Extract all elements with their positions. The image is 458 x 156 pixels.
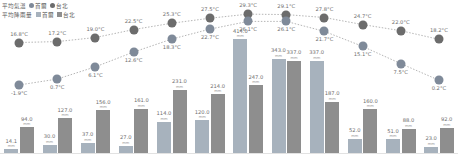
month-group: 414.0mm247.0mm <box>233 35 263 153</box>
temperature-value-label: 27.8°C <box>316 6 334 12</box>
bar-unit-label: mm <box>96 105 111 109</box>
rainfall-bar-seoul: 414.0mm <box>233 39 247 153</box>
temperature-dot-taipei <box>320 13 329 22</box>
month-group: 337.0mm187.0mm <box>310 35 340 153</box>
temperature-value-label: 18.3°C <box>163 44 181 50</box>
bar-value-label: 343.0mm <box>271 48 286 57</box>
temperature-dot-taipei <box>129 25 138 34</box>
temperature-dot-seoul <box>396 59 405 68</box>
rainfall-bar-taipei: 94.0mm <box>20 127 34 153</box>
rainfall-bar-seoul: 52.0mm <box>348 139 362 153</box>
rainfall-bar-seoul: 27.0mm <box>119 146 133 153</box>
bar-unit-label: mm <box>349 134 361 138</box>
bar-value-label: 52.0mm <box>349 128 361 137</box>
rainfall-bar-taipei: 127.0mm <box>58 118 72 153</box>
bar-unit-label: mm <box>44 140 56 144</box>
bar-value-label: 92.0mm <box>441 117 453 126</box>
temperature-value-label: 0.2°C <box>432 85 446 91</box>
bar-unit-label: mm <box>271 54 286 58</box>
temperature-dot-taipei <box>91 33 100 42</box>
rainfall-bar-seoul: 51.0mm <box>386 139 400 153</box>
temperature-dot-seoul <box>358 42 367 51</box>
month-group: 114.0mm231.0mm <box>157 35 187 153</box>
temperature-value-label: 25.3°C <box>163 11 181 17</box>
bar-value-label: 156.0mm <box>96 100 111 109</box>
bar-value-label: 161.0mm <box>134 98 149 107</box>
bar-unit-label: mm <box>157 117 172 121</box>
bar-unit-label: mm <box>21 122 33 126</box>
bar-value-label: 120.0mm <box>195 110 210 119</box>
temperature-value-label: 12.6°C <box>125 57 143 63</box>
rainfall-bar-taipei: 187.0mm <box>325 102 339 153</box>
temperature-value-label: 29.1°C <box>277 3 295 9</box>
bar-value-label: 160.0mm <box>363 99 378 108</box>
bar-value-label: 187.0mm <box>325 91 340 100</box>
bar-value-label: 337.0mm <box>309 50 324 59</box>
bar-value-label: 247.0mm <box>248 75 263 84</box>
temperature-dot-taipei <box>205 14 214 23</box>
temperature-dot-taipei <box>358 20 367 29</box>
temperature-value-label: 22.7°C <box>201 34 219 40</box>
bar-unit-label: mm <box>233 34 248 38</box>
month-group: 120.0mm214.0mm <box>195 35 225 153</box>
rainfall-bar-taipei: 214.0mm <box>211 94 225 153</box>
plot-area: 14.1mm94.0mm30.0mm127.0mm37.0mm156.0mm27… <box>0 0 458 156</box>
bar-unit-label: mm <box>325 97 340 101</box>
temperature-dot-taipei <box>15 38 24 47</box>
month-group: 343.0mm337.0mm <box>272 35 302 153</box>
month-group: 23.0mm92.0mm <box>424 35 454 153</box>
rainfall-bar-seoul: 30.0mm <box>43 145 57 153</box>
rainfall-bar-taipei: 231.0mm <box>173 90 187 153</box>
temperature-value-label: 29.3°C <box>239 2 257 8</box>
month-group: 51.0mm88.0mm <box>386 35 416 153</box>
bar-unit-label: mm <box>120 141 132 145</box>
temperature-dot-seoul <box>282 17 291 26</box>
rainfall-bar-taipei: 156.0mm <box>96 110 110 153</box>
bar-value-label: 94.0mm <box>21 117 33 126</box>
bar-value-label: 88.0mm <box>403 118 415 127</box>
temperature-dot-seoul <box>205 25 214 34</box>
temperature-value-label: 26.1°C <box>277 26 295 32</box>
bar-value-label: 27.0mm <box>120 135 132 144</box>
rainfall-bar-seoul: 337.0mm <box>310 61 324 153</box>
bar-value-label: 23.0mm <box>425 136 437 145</box>
temperature-dot-seoul <box>129 48 138 57</box>
temperature-value-label: 21.7°C <box>316 36 334 42</box>
bar-value-label: 214.0mm <box>210 84 225 93</box>
temperature-value-label: 7.5°C <box>394 69 408 75</box>
bar-unit-label: mm <box>58 113 73 117</box>
bar-unit-label: mm <box>363 104 378 108</box>
bar-value-label: 337.0mm <box>287 50 302 59</box>
temperature-value-label: 26.1°C <box>239 26 257 32</box>
bar-unit-label: mm <box>403 124 415 128</box>
bar-unit-label: mm <box>309 56 324 60</box>
temperature-dot-taipei <box>396 26 405 35</box>
temperature-dot-seoul <box>320 27 329 36</box>
temperature-value-label: 22.5°C <box>125 18 143 24</box>
temperature-value-label: 16.8°C <box>10 31 28 37</box>
temperature-dot-seoul <box>91 62 100 71</box>
bar-unit-label: mm <box>441 123 453 127</box>
rainfall-bar-seoul: 37.0mm <box>81 143 95 153</box>
temperature-value-label: 27.5°C <box>201 6 219 12</box>
bar-unit-label: mm <box>134 104 149 108</box>
temperature-dot-taipei <box>53 37 62 46</box>
month-group: 30.0mm127.0mm <box>43 35 73 153</box>
temperature-dot-taipei <box>167 19 176 28</box>
bar-value-label: 14.1mm <box>6 139 18 148</box>
temperature-value-label: 24.7°C <box>354 13 372 19</box>
month-group: 37.0mm156.0mm <box>81 35 111 153</box>
bar-unit-label: mm <box>287 56 302 60</box>
temperature-value-label: 18.2°C <box>430 27 448 33</box>
bar-unit-label: mm <box>387 134 399 138</box>
rainfall-bar-seoul: 114.0mm <box>157 122 171 153</box>
temperature-value-label: 6.1°C <box>88 72 102 78</box>
bar-value-label: 231.0mm <box>172 79 187 88</box>
rainfall-bar-taipei: 337.0mm <box>287 61 301 153</box>
temperature-dot-seoul <box>53 75 62 84</box>
temperature-value-label: 22.0°C <box>392 19 410 25</box>
temperature-value-label: 15.1°C <box>354 51 372 57</box>
rainfall-bar-taipei: 161.0mm <box>134 109 148 153</box>
temperature-value-label: -1.9°C <box>11 90 27 96</box>
temperature-value-label: 17.2°C <box>48 30 66 36</box>
